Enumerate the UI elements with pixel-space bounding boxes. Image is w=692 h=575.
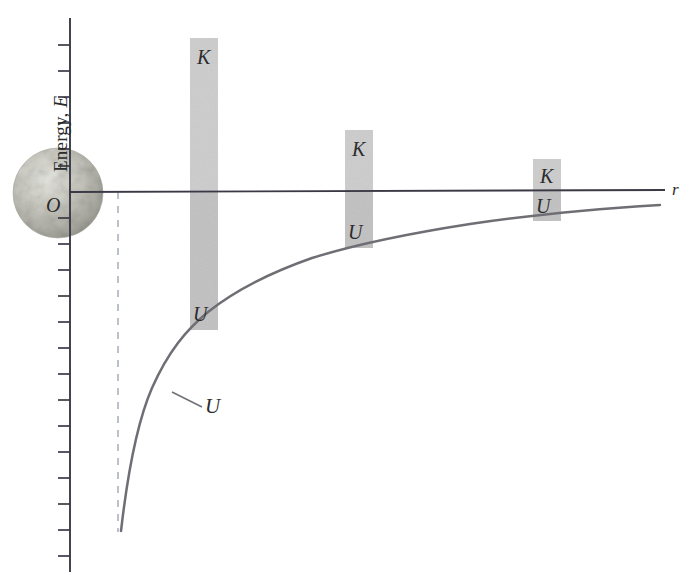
energy-bar-3-u-label: U [536, 195, 550, 218]
figure-canvas: Energy, E O r K U K U K U U [0, 0, 692, 575]
potential-energy-curve-label: U [205, 394, 220, 419]
y-axis-label: Energy, E [50, 96, 72, 172]
energy-bar-3-k-label: K [540, 165, 553, 188]
energy-bar-2-u-label: U [348, 221, 362, 244]
energy-bar-1-u-label: U [193, 303, 207, 326]
x-axis-label: r [672, 180, 679, 200]
y-axis-label-prefix: Energy, [50, 108, 71, 172]
energy-bar-1-k-label: K [197, 46, 210, 69]
curve-label-leader-line [172, 392, 202, 407]
energy-bar-2-k-label: K [352, 138, 365, 161]
energy-diagram-svg [0, 0, 692, 575]
origin-label: O [46, 194, 60, 217]
x-axis-line [70, 190, 665, 192]
y-axis-label-symbol: E [50, 96, 71, 108]
